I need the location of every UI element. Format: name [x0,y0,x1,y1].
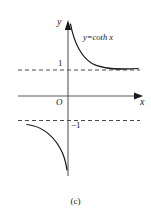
curve-equation-label: y=coth x [83,33,113,42]
figure-caption: (c) [0,196,151,206]
coth-curve-negative-branch [27,125,67,171]
coth-function-figure: y x O 1 −1 y=coth x (c) [0,0,151,220]
tick-label-positive-one: 1 [58,59,63,68]
x-axis-label: x [140,97,144,107]
coth-curve-positive-branch [71,24,139,69]
plot-area [0,0,151,220]
tick-label-negative-one: −1 [71,121,81,130]
y-axis-label: y [57,17,61,27]
origin-label: O [56,98,63,107]
